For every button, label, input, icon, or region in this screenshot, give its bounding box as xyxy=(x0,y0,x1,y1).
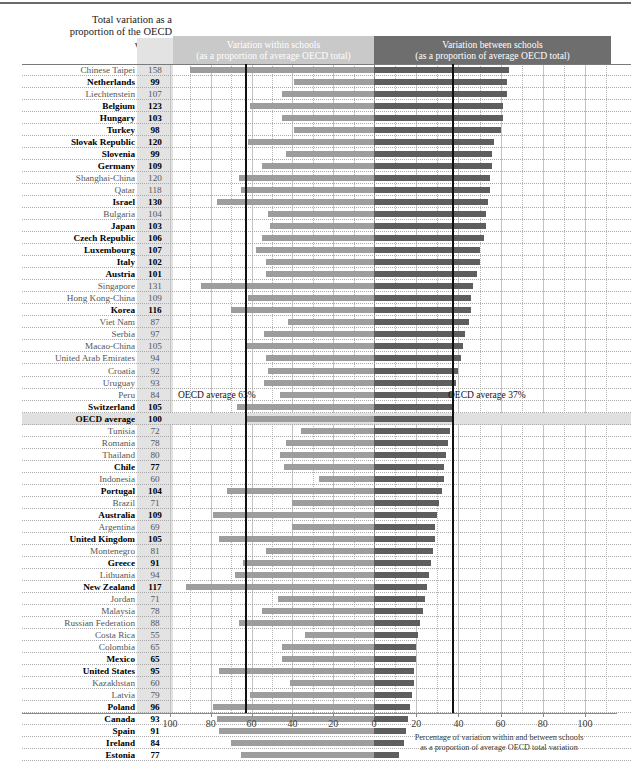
bar-within-schools xyxy=(241,187,374,193)
country-label: Hungary xyxy=(22,112,135,124)
chart-page: Total variation as a proportion of the O… xyxy=(0,0,631,761)
chart-row: Bulgaria104 xyxy=(0,208,631,220)
axis-right-100-tick xyxy=(585,713,586,717)
axis-left-100-label: 100 xyxy=(150,718,190,729)
bar-within-schools xyxy=(227,488,374,494)
country-label: OECD average xyxy=(22,413,135,425)
bar-within-schools xyxy=(294,127,374,133)
bar-within-schools xyxy=(284,464,374,470)
bar-within-schools xyxy=(248,295,374,301)
bar-within-schools xyxy=(262,608,374,614)
bar-within-schools xyxy=(286,440,374,446)
bar-within-schools xyxy=(239,175,374,181)
between-schools-header: Variation between schools (as a proporti… xyxy=(374,36,611,64)
bar-within-schools xyxy=(190,67,374,73)
axis-caption-line1: Percentage of variation within and betwe… xyxy=(415,733,584,742)
axis-left-20-tick xyxy=(333,713,334,717)
total-variation-value: 131 xyxy=(137,280,173,292)
bar-between-schools xyxy=(374,91,507,97)
total-variation-value: 95 xyxy=(137,665,173,677)
total-variation-value: 60 xyxy=(137,677,173,689)
bar-between-schools xyxy=(374,307,471,313)
chart-row: Slovenia99 xyxy=(0,148,631,160)
country-label: Qatar xyxy=(22,184,135,196)
axis-left-80-tick xyxy=(211,713,212,717)
bar-between-schools xyxy=(374,560,431,566)
chart-row: Hungary103 xyxy=(0,112,631,124)
country-label: Jordan xyxy=(22,593,135,605)
bar-between-schools xyxy=(374,115,503,121)
total-variation-value: 123 xyxy=(137,100,173,112)
bar-within-schools xyxy=(292,500,374,506)
total-variation-value: 120 xyxy=(137,136,173,148)
axis-left-40-tick xyxy=(292,713,293,717)
axis-right-40-tick xyxy=(458,713,459,717)
axis-right-60-tick xyxy=(501,713,502,717)
chart-row: Korea116 xyxy=(0,304,631,316)
bar-within-schools xyxy=(266,355,374,361)
bar-between-schools xyxy=(374,656,416,662)
chart-row: Russian Federation88 xyxy=(0,617,631,629)
chart-row: Israel130 xyxy=(0,196,631,208)
country-label: Slovenia xyxy=(22,148,135,160)
chart-row: Costa Rica55 xyxy=(0,629,631,641)
axis-right-100-label: 100 xyxy=(565,718,605,729)
bar-within-schools xyxy=(250,692,374,698)
bar-between-schools xyxy=(374,416,452,422)
country-label: Austria xyxy=(22,268,135,280)
bar-between-schools xyxy=(374,524,435,530)
country-label: Ireland xyxy=(22,737,135,749)
total-variation-value: 109 xyxy=(137,292,173,304)
total-variation-value: 79 xyxy=(137,689,173,701)
bar-between-schools xyxy=(374,500,439,506)
axis-left-60-label: 60 xyxy=(232,718,272,729)
chart-row: Jordan71 xyxy=(0,593,631,605)
bar-between-schools xyxy=(374,223,486,229)
country-label: Macao-China xyxy=(22,340,135,352)
bar-within-schools xyxy=(280,452,374,458)
bar-within-schools xyxy=(235,572,374,578)
total-variation-value: 116 xyxy=(137,304,173,316)
chart-row: Mexico65 xyxy=(0,653,631,665)
bar-within-schools xyxy=(219,668,374,674)
bar-within-schools xyxy=(256,247,374,253)
chart-row: Qatar118 xyxy=(0,184,631,196)
total-variation-value: 118 xyxy=(137,184,173,196)
country-label: Poland xyxy=(22,701,135,713)
bar-between-schools xyxy=(374,596,425,602)
bar-within-schools xyxy=(248,139,374,145)
country-label: Costa Rica xyxy=(22,629,135,641)
bar-between-schools xyxy=(374,283,473,289)
bar-between-schools xyxy=(374,512,437,518)
bar-within-schools xyxy=(301,428,374,434)
total-variation-value: 105 xyxy=(137,533,173,545)
bar-within-schools xyxy=(264,331,374,337)
country-label: Estonia xyxy=(22,749,135,761)
bar-within-schools xyxy=(266,548,374,554)
bar-within-schools xyxy=(237,404,374,410)
total-variation-value: 96 xyxy=(137,701,173,713)
bar-between-schools xyxy=(374,187,490,193)
bar-within-schools xyxy=(268,211,374,217)
country-label: Netherlands xyxy=(22,76,135,88)
chart-row: Chile77 xyxy=(0,461,631,473)
country-label: Hong Kong-China xyxy=(22,292,135,304)
bar-between-schools xyxy=(374,584,427,590)
bar-between-schools xyxy=(374,608,423,614)
total-variation-value: 80 xyxy=(137,449,173,461)
total-variation-value: 65 xyxy=(137,653,173,665)
bar-between-schools xyxy=(374,211,486,217)
total-variation-value: 94 xyxy=(137,569,173,581)
country-label: Luxembourg xyxy=(22,244,135,256)
bar-between-schools xyxy=(374,620,420,626)
chart-row: Romania78 xyxy=(0,437,631,449)
total-variation-value: 65 xyxy=(137,641,173,653)
total-variation-value: 120 xyxy=(137,172,173,184)
bar-between-schools xyxy=(374,151,492,157)
country-label: Croatia xyxy=(22,365,135,377)
bar-within-schools xyxy=(282,91,374,97)
chart-row: OECD average100 xyxy=(0,413,631,425)
total-variation-value: 81 xyxy=(137,545,173,557)
bar-within-schools xyxy=(241,752,374,758)
bar-between-schools xyxy=(374,440,448,446)
